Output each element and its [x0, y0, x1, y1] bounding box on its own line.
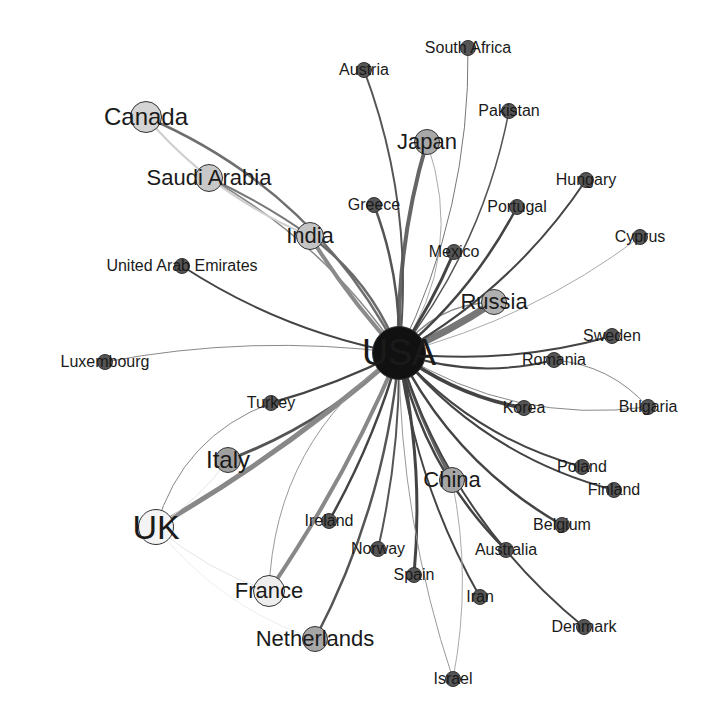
node-portugal	[509, 199, 525, 215]
node-israel	[445, 671, 461, 687]
edge-usa-south-africa	[399, 48, 468, 353]
node-spain	[406, 567, 422, 583]
edge-china-israel	[452, 480, 462, 679]
node-canada	[130, 101, 162, 133]
node-ireland	[321, 513, 337, 529]
node-india	[296, 222, 324, 250]
node-austria	[356, 62, 372, 78]
node-iran	[472, 589, 488, 605]
node-hungary	[578, 172, 594, 188]
node-france	[253, 575, 285, 607]
node-italy	[215, 447, 241, 473]
node-netherlands	[302, 626, 328, 652]
node-south-africa	[460, 40, 476, 56]
node-bulgaria	[640, 399, 656, 415]
node-saudi-arabia	[195, 164, 223, 192]
node-korea	[516, 400, 532, 416]
edge-romania-bulgaria	[554, 360, 648, 407]
network-diagram: USACanadaSaudi ArabiaIndiaJapanRussiaIta…	[0, 0, 715, 717]
node-australia	[498, 542, 514, 558]
node-luxembourg	[97, 354, 113, 370]
edge-usa-canada	[146, 117, 399, 353]
node-united-arab-emirates	[174, 258, 190, 274]
node-belgium	[554, 517, 570, 533]
node-pakistan	[501, 103, 517, 119]
node-uk	[138, 509, 174, 545]
node-greece	[366, 197, 382, 213]
node-japan	[414, 129, 440, 155]
node-china	[439, 467, 465, 493]
edge-uk-netherlands	[156, 527, 315, 639]
node-usa	[372, 326, 426, 380]
node-turkey	[263, 395, 279, 411]
edge-uk-france	[156, 527, 269, 591]
node-norway	[370, 541, 386, 557]
edge-usa-luxembourg	[105, 345, 399, 362]
node-denmark	[576, 619, 592, 635]
edge-usa-uk	[156, 353, 399, 527]
node-cyprus	[632, 229, 648, 245]
node-russia	[481, 289, 507, 315]
node-sweden	[604, 328, 620, 344]
node-mexico	[446, 244, 462, 260]
node-poland	[574, 459, 590, 475]
node-finland	[606, 482, 622, 498]
node-romania	[546, 352, 562, 368]
